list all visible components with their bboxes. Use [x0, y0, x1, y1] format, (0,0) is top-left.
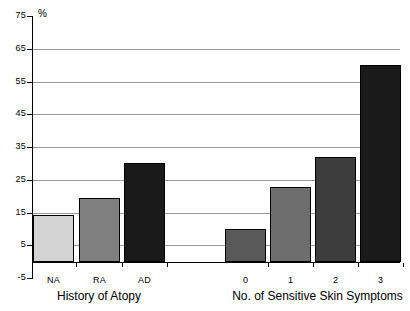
- x-axis-tick-mark: [268, 263, 269, 267]
- y-axis-tick-label: -5: [0, 273, 26, 282]
- bar: [360, 65, 401, 262]
- bar: [225, 229, 266, 262]
- x-axis-tick-mark: [358, 263, 359, 267]
- bars-layer: [33, 16, 400, 278]
- group-axis-title: History of Atopy: [33, 290, 165, 303]
- bar-chart: % 756555453525155-5 NARAAD0123 History o…: [0, 0, 410, 311]
- y-axis-tick-label: 55: [0, 77, 26, 86]
- bar: [270, 187, 311, 262]
- x-axis-category-label: 3: [360, 275, 401, 285]
- y-axis-tick-label: 45: [0, 109, 26, 118]
- x-axis-category-label: NA: [33, 275, 74, 285]
- x-axis-tick-mark: [167, 263, 168, 267]
- x-axis-category-label: 2: [315, 275, 356, 285]
- bar: [315, 157, 356, 262]
- x-axis-tick-mark: [403, 263, 404, 267]
- x-axis-category-label: 1: [270, 275, 311, 285]
- y-axis-tick-label: 35: [0, 142, 26, 151]
- x-axis-category-label: AD: [124, 275, 165, 285]
- bar: [33, 215, 74, 262]
- y-axis-tick-label: 5: [0, 240, 26, 249]
- group-axis-title: No. of Sensitive Skin Symptoms: [225, 290, 410, 303]
- x-axis-tick-mark: [313, 263, 314, 267]
- x-axis-category-label: 0: [225, 275, 266, 285]
- x-axis-tick-mark: [76, 263, 77, 267]
- bar: [124, 163, 165, 261]
- bar: [79, 198, 120, 262]
- x-axis-category-label: RA: [79, 275, 120, 285]
- y-axis-tick-label: 75: [0, 11, 26, 20]
- y-axis-tick-label: 25: [0, 175, 26, 184]
- x-axis-tick-mark: [122, 263, 123, 267]
- y-axis-tick-label: 15: [0, 208, 26, 217]
- y-axis-tick-label: 65: [0, 44, 26, 53]
